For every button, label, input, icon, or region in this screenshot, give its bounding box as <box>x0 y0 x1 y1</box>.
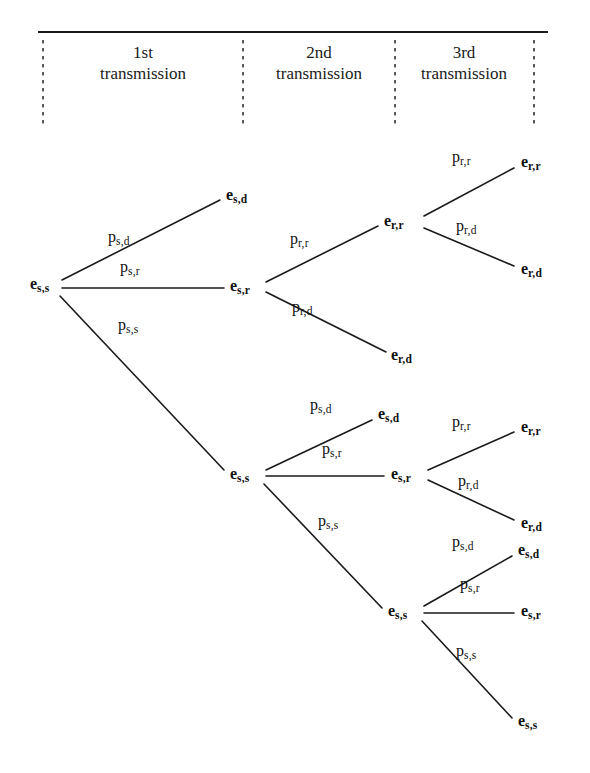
node-subscript: s,d <box>233 193 247 205</box>
edge-probability-lbl-ss2-sd: ps,d <box>452 533 474 552</box>
edge-probability-lbl-sr-rr: pr,r <box>290 230 309 249</box>
node-subscript: s,s <box>237 472 249 484</box>
probability-subscript: r,d <box>464 224 477 236</box>
tree-node-n-l3-rr-mid: er,r <box>521 418 541 437</box>
node-subscript: r,r <box>528 425 541 437</box>
edge-probability-lbl-ss-sr: ps,r <box>322 440 342 459</box>
edge-probability-lbl-ss2-ss: ps,s <box>456 642 476 661</box>
probability-subscript: s,r <box>128 265 140 277</box>
probability-base-symbol: p <box>456 217 464 234</box>
probability-subscript: s,s <box>326 519 338 531</box>
tree-node-n-l1-r: es,r <box>230 277 250 296</box>
tree-node-n-l1-d: es,d <box>226 186 247 205</box>
probability-subscript: r,r <box>460 420 471 432</box>
node-subscript: s,s <box>395 609 407 621</box>
tree-node-n-l3-sd-bot: es,d <box>518 541 539 560</box>
probability-base-symbol: p <box>292 298 300 315</box>
tree-edge <box>428 432 514 470</box>
edge-probability-lbl-ss-ss: ps,s <box>318 512 338 531</box>
tree-node-n-l3-ss-bot: es,s <box>518 712 538 731</box>
probability-subscript: r,d <box>300 305 313 317</box>
edge-probability-lbl-ss-sd: ps,d <box>310 396 332 415</box>
node-subscript: r,d <box>528 521 542 533</box>
tree-edge <box>424 168 514 216</box>
edge-probability-lbl-root-sd: ps,d <box>108 228 130 247</box>
probability-subscript: s,r <box>330 447 342 459</box>
node-subscript: s,r <box>528 609 541 621</box>
edge-probability-lbl-root-ss: ps,s <box>118 316 138 335</box>
probability-base-symbol: p <box>290 230 298 247</box>
probability-subscript: r,r <box>460 155 471 167</box>
column-header-col-1: 1st transmission <box>63 42 223 85</box>
node-subscript: s,s <box>37 282 49 294</box>
tree-node-n-l3-sr-bot: es,r <box>521 602 541 621</box>
probability-base-symbol: p <box>118 316 126 333</box>
probability-base-symbol: p <box>108 228 116 245</box>
probability-base-symbol: p <box>452 533 460 550</box>
probability-subscript: s,d <box>318 403 332 415</box>
probability-base-symbol: p <box>322 440 330 457</box>
node-subscript: r,r <box>528 160 541 172</box>
probability-subscript: s,d <box>116 235 130 247</box>
tree-node-n-l2-rd: er,d <box>391 346 412 365</box>
tree-node-n-l2-sd: es,d <box>378 405 399 424</box>
tree-edge <box>264 484 382 608</box>
tree-node-n-l1-s: es,s <box>230 465 250 484</box>
tree-node-n-l2-sr: es,r <box>391 465 411 484</box>
tree-edge <box>60 296 224 470</box>
column-header-col-2: 2nd transmission <box>239 42 399 85</box>
tree-edge <box>266 292 386 352</box>
probability-subscript: s,s <box>464 649 476 661</box>
probability-subscript: s,d <box>460 540 474 552</box>
node-subscript: s,d <box>525 548 539 560</box>
probability-base-symbol: p <box>458 472 466 489</box>
edge-probability-lbl-rr-rr: pr,r <box>452 148 471 167</box>
node-subscript: r,d <box>528 267 542 279</box>
probability-subscript: s,s <box>126 323 138 335</box>
probability-base-symbol: p <box>120 258 128 275</box>
tree-node-n-l2-rr: er,r <box>384 212 404 231</box>
node-subscript: r,d <box>398 353 412 365</box>
tree-edge <box>266 420 372 470</box>
probability-subscript: r,r <box>298 237 309 249</box>
probability-base-symbol: p <box>460 575 468 592</box>
node-subscript: r,r <box>391 219 404 231</box>
edge-probability-lbl-sr2-rd: pr,d <box>458 472 479 491</box>
edge-probability-lbl-ss2-sr: ps,r <box>460 575 480 594</box>
tree-diagram-canvas <box>0 0 590 773</box>
probability-base-symbol: p <box>452 413 460 430</box>
probability-base-symbol: p <box>452 148 460 165</box>
tree-node-n-l3-rd-mid: er,d <box>521 514 542 533</box>
edge-probability-lbl-rr-rd: pr,d <box>456 217 477 236</box>
tree-edge <box>62 200 220 280</box>
tree-node-n-l3-rd-top: er,d <box>521 260 542 279</box>
node-subscript: s,r <box>398 472 411 484</box>
tree-edge <box>266 226 378 282</box>
edge-probability-lbl-root-sr: ps,r <box>120 258 140 277</box>
node-subscript: s,r <box>237 284 250 296</box>
probability-base-symbol: p <box>310 396 318 413</box>
tree-edge <box>422 621 512 718</box>
node-subscript: s,s <box>525 719 537 731</box>
tree-node-n-l3-rr-top: er,r <box>521 153 541 172</box>
tree-node-n-l2-ss: es,s <box>388 602 408 621</box>
probability-base-symbol: p <box>318 512 326 529</box>
node-subscript: s,d <box>385 412 399 424</box>
probability-base-symbol: p <box>456 642 464 659</box>
probability-subscript: r,d <box>466 479 479 491</box>
column-header-col-3: 3rd transmission <box>384 42 544 85</box>
edge-probability-lbl-sr-rd: pr,d <box>292 298 313 317</box>
probability-subscript: s,r <box>468 582 480 594</box>
probability-tree-figure: 1st transmission2nd transmission3rd tran… <box>0 0 590 773</box>
edge-probability-lbl-sr2-rr: pr,r <box>452 413 471 432</box>
tree-edge-group <box>60 168 514 718</box>
tree-node-n-root: es,s <box>30 275 50 294</box>
